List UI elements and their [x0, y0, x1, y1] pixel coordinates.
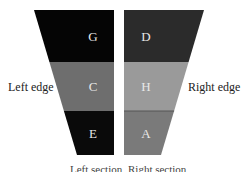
bottom-right-label: Right section: [128, 163, 186, 172]
right-cell-top-label: D: [141, 29, 150, 44]
right-cell-middle-label: H: [141, 79, 150, 94]
left-cell-middle: [49, 62, 114, 111]
left-cell-bottom-label: E: [89, 126, 97, 141]
right-cell-bottom-label: A: [141, 126, 151, 141]
bottom-left-label: Left section: [70, 163, 122, 172]
right-cell-middle: [124, 62, 189, 111]
left-cell-top: [34, 10, 114, 62]
left-cell-top-label: G: [88, 29, 97, 44]
left-edge-label: Left edge: [8, 80, 54, 95]
left-cell-middle-label: C: [89, 79, 98, 94]
right-edge-label: Right edge: [188, 80, 240, 95]
right-cell-top: [124, 10, 204, 62]
